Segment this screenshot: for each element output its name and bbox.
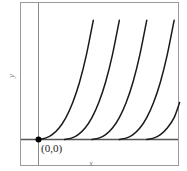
x-axis-label: x — [89, 158, 93, 168]
y-axis-label: y — [6, 74, 16, 78]
origin-coordinate-label: (0,0) — [41, 142, 62, 154]
plot-canvas — [0, 0, 187, 171]
figure-container: y x (0,0) — [0, 0, 187, 171]
